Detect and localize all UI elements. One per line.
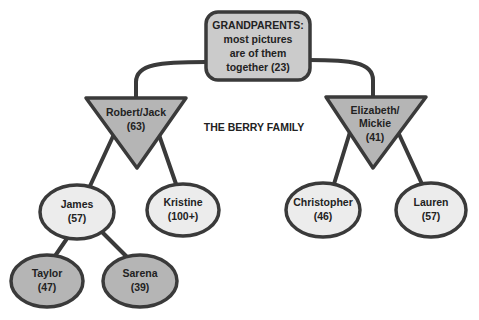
- node-taylor: Taylor (47): [11, 255, 83, 307]
- edge-elizabeth-lauren: [398, 132, 422, 184]
- edge-grandparents-robert: [136, 62, 206, 99]
- family-tree-diagram: GRANDPARENTS: most pictures are of them …: [0, 0, 479, 320]
- robert-jack-name: Robert/Jack: [106, 106, 166, 118]
- taylor-count: (47): [38, 281, 57, 293]
- christopher-name: Christopher: [293, 196, 353, 208]
- sarena-count: (39): [131, 281, 150, 293]
- grandparents-line-4: together (23): [226, 61, 290, 73]
- edge-robert-kristine: [158, 132, 176, 184]
- edge-james-taylor: [55, 237, 68, 256]
- grandparents-line-1: GRANDPARENTS:: [212, 19, 303, 31]
- node-sarena: Sarena (39): [103, 255, 177, 307]
- node-grandparents: GRANDPARENTS: most pictures are of them …: [206, 12, 310, 80]
- james-count: (57): [68, 212, 87, 224]
- robert-jack-count: (63): [127, 120, 146, 132]
- node-lauren: Lauren (57): [396, 183, 466, 237]
- kristine-name: Kristine: [163, 196, 202, 208]
- edge-grandparents-elizabeth: [309, 60, 373, 99]
- taylor-name: Taylor: [32, 267, 63, 279]
- edge-elizabeth-christopher: [334, 132, 350, 184]
- edge-robert-james: [90, 132, 115, 186]
- diagram-title: THE BERRY FAMILY: [204, 121, 305, 133]
- elizabeth-mickie-count: (41): [366, 131, 385, 143]
- elizabeth-mickie-name-1: Elizabeth/: [350, 104, 399, 116]
- elizabeth-mickie-name-2: Mickie: [359, 117, 391, 129]
- grandparents-line-3: are of them: [230, 47, 287, 59]
- sarena-name: Sarena: [122, 267, 157, 279]
- node-christopher: Christopher (46): [286, 183, 360, 237]
- grandparents-line-2: most pictures: [224, 33, 293, 45]
- lauren-name: Lauren: [413, 196, 448, 208]
- kristine-count: (100+): [168, 210, 199, 222]
- lauren-count: (57): [422, 210, 441, 222]
- james-name: James: [61, 198, 94, 210]
- node-kristine: Kristine (100+): [147, 184, 219, 236]
- node-james: James (57): [40, 185, 114, 239]
- edge-james-sarena: [100, 230, 127, 257]
- christopher-count: (46): [314, 210, 333, 222]
